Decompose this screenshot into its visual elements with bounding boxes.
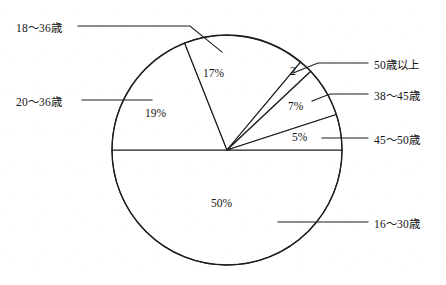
pie-chart-figure: 18～36歳 20～36歳 50歳以上 38～45歳 45～50歳 16～30歳…	[0, 0, 446, 285]
data-label-50-percent: 50%	[211, 197, 232, 209]
pie-slices	[112, 35, 342, 265]
category-label-18-36: 18～36歳	[16, 19, 62, 35]
category-label-38-45: 38～45歳	[374, 87, 420, 103]
data-label-19-percent: 19%	[145, 107, 166, 119]
category-label-20-36: 20～36歳	[16, 93, 62, 109]
category-label-16-30: 16～30歳	[374, 215, 420, 231]
data-label-17-percent: 17%	[203, 67, 224, 79]
category-label-45-50: 45～50歳	[374, 131, 420, 147]
data-label-2-percent: 2	[290, 65, 296, 77]
data-label-5-percent: 5%	[292, 131, 307, 143]
data-label-7-percent: 7%	[288, 100, 303, 112]
category-label-50-plus: 50歳以上	[374, 56, 420, 72]
